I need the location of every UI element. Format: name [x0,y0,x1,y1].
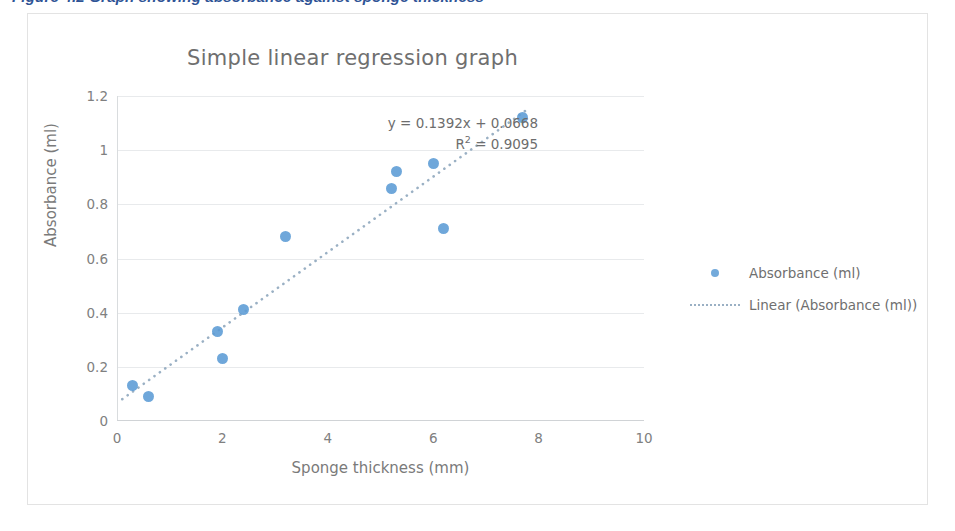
x-axis-tick-label: 0 [113,430,122,446]
y-axis-title: Absorbance (ml) [42,75,60,295]
y-axis-tick-label: 0.2 [87,359,108,375]
x-axis-tick-label: 4 [324,430,333,446]
data-point [212,326,223,337]
clipped-document-heading-strip: Figure 4.2 Graph showing absorbance agai… [0,0,955,9]
legend-item-label: Absorbance (ml) [749,265,861,281]
y-axis-tick-label: 1 [99,142,108,158]
chart-title: Simple linear regression graph [28,46,927,70]
x-axis-title: Sponge thickness (mm) [117,459,644,477]
r-squared-number: = 0.9095 [471,136,538,152]
y-axis-tick-label: 0 [99,413,108,429]
legend-item-series: Absorbance (ml) [681,257,911,289]
legend-item-trendline: Linear (Absorbance (ml)) [681,289,911,321]
legend-marker-icon [681,269,749,277]
data-point [386,183,397,194]
chart-frame: Simple linear regression graph 00.20.40.… [27,13,928,505]
y-axis-tick-label: 0.4 [87,305,108,321]
x-axis-tick-label: 2 [218,430,227,446]
legend-item-label: Linear (Absorbance (ml)) [749,297,917,313]
y-axis-tick-label: 0.6 [87,251,108,267]
y-axis-tick-label: 0.8 [87,196,108,212]
r-squared-value: R2 = 0.9095 [353,133,538,154]
x-axis-tick-label: 6 [429,430,438,446]
r-symbol: R [455,136,464,152]
legend-dotted-line-icon [681,304,749,306]
x-axis-tick-label: 10 [635,430,652,446]
regression-equation: y = 0.1392x + 0.0668 [353,113,538,133]
regression-equation-annotation: y = 0.1392x + 0.0668 R2 = 0.9095 [353,113,538,154]
x-axis-tick-label: 8 [534,430,543,446]
document-heading: Figure 4.2 Graph showing absorbance agai… [12,0,484,5]
plot-area: 00.20.40.60.811.2 0246810 y = 0.1392x + … [117,96,644,421]
chart-legend: Absorbance (ml) Linear (Absorbance (ml)) [681,257,911,321]
data-point [428,158,439,169]
y-axis-tick-label: 1.2 [87,88,108,104]
